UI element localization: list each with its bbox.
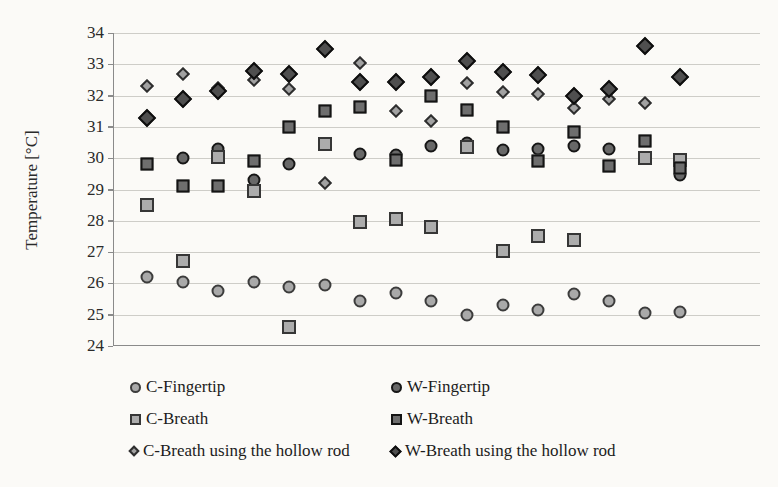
point-w_fingertip-12: [532, 142, 545, 155]
point-c_fingertip-2: [176, 275, 189, 288]
point-c_fingertip-14: [603, 294, 616, 307]
point-c_fingertip-6: [318, 278, 331, 291]
point-w_fingertip-9: [425, 139, 438, 152]
point-w_breath-3: [212, 180, 225, 193]
legend-label-w_breath: W-Breath: [407, 409, 473, 429]
point-c_fingertip-1: [141, 271, 154, 284]
y-tick-mark-26: [108, 283, 113, 285]
legend-item-c_fingertip: C-Fingertip: [130, 377, 225, 397]
point-w_breath-9: [425, 89, 438, 102]
y-tick-mark-33: [108, 64, 113, 66]
c_fingertip-legend-circle-icon: [130, 382, 141, 393]
y-tick-label-28: 28: [62, 211, 104, 231]
legend-item-c_breath: C-Breath: [130, 409, 208, 429]
point-w_breath-7: [354, 100, 367, 113]
point-w_breath-15: [638, 134, 651, 147]
legend-label-c_fingertip: C-Fingertip: [146, 377, 225, 397]
y-tick-label-30: 30: [62, 148, 104, 168]
y-tick-label-34: 34: [62, 23, 104, 43]
legend-label-c_breath: C-Breath: [146, 409, 208, 429]
point-c_breath-9: [424, 220, 438, 234]
legend-label-w_breath_rod: W-Breath using the hollow rod: [405, 441, 616, 461]
point-c_fingertip-4: [247, 275, 260, 288]
point-c_fingertip-5: [283, 280, 296, 293]
point-w_breath-5: [283, 120, 296, 133]
c_breath_rod-legend-diamond-icon: [128, 445, 139, 456]
scatter-chart-figure: Temperature [°C] C-FingertipC-BreathC-Br…: [0, 0, 778, 487]
gridline-25: [114, 315, 760, 316]
w_breath_rod-legend-diamond-icon: [389, 445, 402, 458]
point-w_breath-8: [389, 153, 402, 166]
point-c_fingertip-16: [674, 305, 687, 318]
w_fingertip-legend-circle-icon: [391, 382, 402, 393]
y-tick-mark-24: [108, 346, 113, 348]
y-tick-mark-32: [108, 95, 113, 97]
point-c_fingertip-3: [212, 285, 225, 298]
point-c_breath-6: [318, 137, 332, 151]
point-w_breath-2: [176, 180, 189, 193]
point-c_fingertip-10: [460, 308, 473, 321]
y-tick-label-33: 33: [62, 54, 104, 74]
legend-label-c_breath_rod: C-Breath using the hollow rod: [143, 441, 350, 461]
y-tick-label-32: 32: [62, 86, 104, 106]
point-c_breath-11: [496, 244, 510, 258]
y-tick-label-31: 31: [62, 117, 104, 137]
point-c_fingertip-15: [638, 307, 651, 320]
point-w_breath-14: [603, 160, 616, 173]
legend-item-w_breath_rod: W-Breath using the hollow rod: [391, 441, 616, 461]
point-w_fingertip-11: [496, 144, 509, 157]
gridline-26: [114, 283, 760, 284]
y-tick-mark-28: [108, 220, 113, 222]
y-tick-label-29: 29: [62, 180, 104, 200]
point-w_fingertip-2: [176, 152, 189, 165]
point-w_breath-10: [460, 103, 473, 116]
point-c_fingertip-11: [496, 299, 509, 312]
y-tick-mark-27: [108, 252, 113, 254]
point-w_fingertip-13: [567, 139, 580, 152]
point-w_breath-11: [496, 120, 509, 133]
point-w_breath-4: [247, 155, 260, 168]
point-c_breath-2: [176, 254, 190, 268]
point-c_fingertip-13: [567, 288, 580, 301]
point-c_breath-8: [389, 212, 403, 226]
y-tick-mark-34: [108, 33, 113, 35]
legend-item-w_breath: W-Breath: [391, 409, 473, 429]
point-c_breath-12: [531, 229, 545, 243]
y-tick-mark-30: [108, 158, 113, 160]
w_breath-legend-square-icon: [391, 414, 402, 425]
point-w_breath-16: [674, 161, 687, 174]
point-c_breath-1: [140, 198, 154, 212]
legend-label-w_fingertip: W-Fingertip: [407, 377, 490, 397]
legend-item-w_fingertip: W-Fingertip: [391, 377, 490, 397]
point-c_breath-10: [460, 140, 474, 154]
y-tick-label-27: 27: [62, 242, 104, 262]
point-w_breath-13: [567, 125, 580, 138]
point-c_fingertip-7: [354, 294, 367, 307]
point-c_fingertip-12: [532, 304, 545, 317]
gridline-33: [114, 64, 760, 65]
gridline-34: [114, 33, 760, 34]
point-c_breath-4: [247, 184, 261, 198]
y-tick-mark-31: [108, 126, 113, 128]
c_breath-legend-square-icon: [130, 414, 141, 425]
legend-item-c_breath_rod: C-Breath using the hollow rod: [130, 441, 350, 461]
point-w_fingertip-5: [283, 158, 296, 171]
point-c_fingertip-8: [389, 286, 402, 299]
point-w_breath-12: [532, 155, 545, 168]
y-axis-title: Temperature [°C]: [22, 130, 42, 250]
point-c_breath-13: [567, 233, 581, 247]
point-c_breath-7: [353, 215, 367, 229]
point-c_fingertip-9: [425, 294, 438, 307]
point-w_breath-1: [141, 158, 154, 171]
point-c_breath-3: [211, 150, 225, 164]
point-w_breath-6: [318, 105, 331, 118]
point-c_breath-15: [638, 151, 652, 165]
y-tick-label-26: 26: [62, 273, 104, 293]
y-tick-mark-29: [108, 189, 113, 191]
gridline-27: [114, 252, 760, 253]
point-c_breath-5: [282, 320, 296, 334]
point-w_fingertip-14: [603, 142, 616, 155]
y-tick-label-24: 24: [62, 336, 104, 356]
y-tick-mark-25: [108, 314, 113, 316]
gridline-31: [114, 127, 760, 128]
